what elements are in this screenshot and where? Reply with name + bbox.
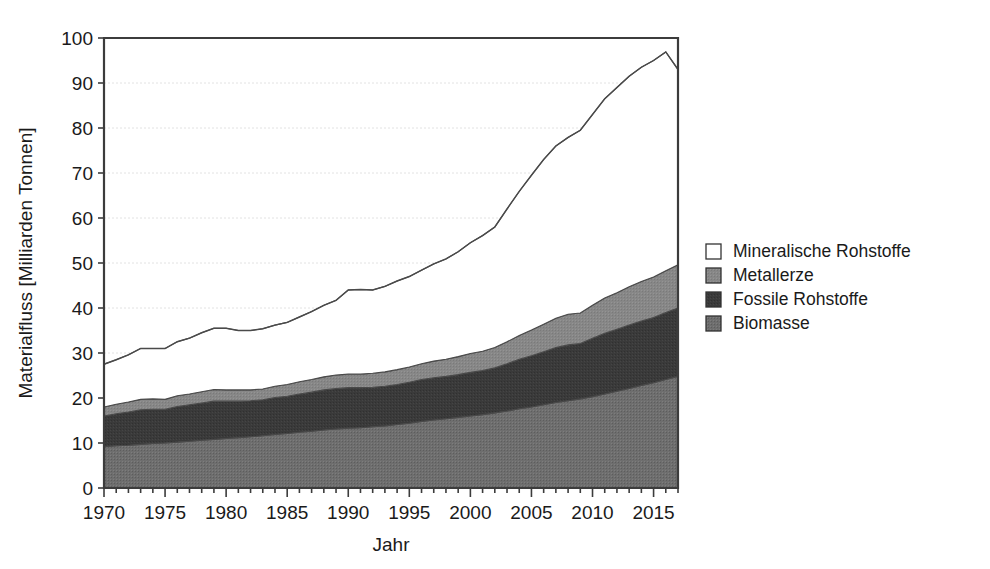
stacked-area-chart: 1009080706050403020100 19701975198019851… — [0, 0, 990, 569]
legend-label: Fossile Rohstoffe — [733, 289, 868, 309]
y-tick-label: 90 — [72, 73, 93, 94]
x-tick-label: 1995 — [388, 502, 430, 523]
chart-figure: 1009080706050403020100 19701975198019851… — [0, 0, 990, 569]
x-tick-label: 1985 — [266, 502, 308, 523]
x-tick-label: 2015 — [632, 502, 674, 523]
y-tick-label: 20 — [72, 388, 93, 409]
legend-swatch — [706, 244, 721, 259]
legend-swatch — [706, 268, 721, 283]
y-tick-label: 10 — [72, 433, 93, 454]
x-tick-label: 1980 — [205, 502, 247, 523]
legend-label: Biomasse — [733, 313, 810, 333]
y-axis-title: Materialfluss [Milliarden Tonnen] — [15, 127, 36, 398]
x-tick-label: 2005 — [510, 502, 552, 523]
y-tick-label: 100 — [61, 28, 93, 49]
x-tick-label: 2000 — [449, 502, 491, 523]
y-tick-label: 50 — [72, 253, 93, 274]
x-tick-label: 1975 — [144, 502, 186, 523]
y-tick-label: 30 — [72, 343, 93, 364]
x-tick-label: 1990 — [327, 502, 369, 523]
x-axis-title: Jahr — [373, 534, 411, 555]
x-tick-label: 1970 — [83, 502, 125, 523]
legend-swatch — [706, 292, 721, 307]
y-tick-label: 80 — [72, 118, 93, 139]
legend-label: Mineralische Rohstoffe — [733, 241, 911, 261]
x-tick-label: 2010 — [571, 502, 613, 523]
y-tick-label: 40 — [72, 298, 93, 319]
legend-label: Metallerze — [733, 265, 814, 285]
y-tick-label: 70 — [72, 163, 93, 184]
y-tick-label: 0 — [82, 478, 93, 499]
y-tick-label: 60 — [72, 208, 93, 229]
legend-swatch — [706, 316, 721, 331]
